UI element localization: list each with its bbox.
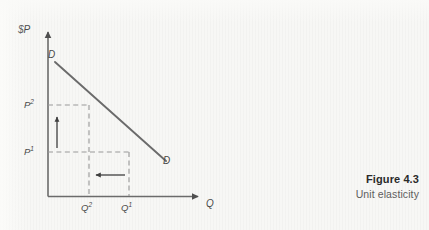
x-tick-label-q1: Q1 (121, 201, 132, 213)
figure-container: $P Q D D P2 P1 Q2 Q (0, 0, 429, 230)
annotation-arrows-group (57, 117, 125, 175)
x-tick-label-q2: Q2 (81, 201, 92, 213)
y-tick-label-p2: P2 (24, 98, 34, 110)
figure-caption-title: Figure 4.3 (301, 172, 419, 187)
y-tick-labels: P2 P1 (24, 98, 34, 157)
figure-caption-subtitle: Unit elasticity (301, 187, 419, 201)
guide-lines-group (48, 105, 129, 196)
y-tick-label-p2-sup: 2 (29, 98, 34, 105)
x-axis-label: Q (206, 198, 214, 209)
x-tick-labels: Q2 Q1 (81, 201, 132, 213)
figure-caption: Figure 4.3 Unit elasticity (301, 172, 419, 201)
x-tick-label-q1-sup: 1 (128, 201, 132, 208)
y-tick-label-p1: P1 (24, 145, 34, 157)
demand-curve (55, 62, 166, 161)
y-axis-label: $P (17, 24, 31, 35)
y-tick-label-p1-sup: 1 (30, 145, 34, 152)
axes-group (48, 32, 198, 197)
x-tick-label-q2-sup: 2 (87, 201, 92, 208)
demand-curve-label-top: D (48, 49, 55, 60)
demand-curve-label-bottom: D (163, 155, 170, 166)
